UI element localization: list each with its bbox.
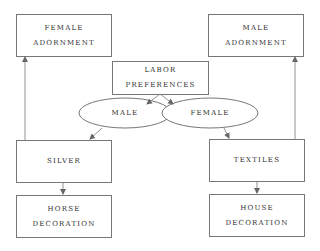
edge-female-to-textiles (224, 128, 229, 138)
edge-male-to-silver (90, 128, 102, 139)
silver-node: SILVER (16, 140, 112, 183)
labor-preferences-node: LABOR PREFERENCES (112, 61, 209, 95)
female-adornment-line-1: FEMALE (44, 21, 83, 36)
female-adornment-node: FEMALE ADORNMENT (16, 14, 112, 57)
textiles-label: TEXTILES (234, 153, 280, 168)
male-label: MALE (79, 98, 171, 128)
male-adornment-line-2: ADORNMENT (225, 36, 287, 51)
labor-preferences-line-1: LABOR (145, 63, 177, 78)
house-decoration-line-1: HOUSE (240, 201, 274, 216)
horse-decoration-line-2: DECORATION (32, 217, 95, 232)
horse-decoration-node: HORSE DECORATION (16, 195, 112, 238)
labor-preferences-line-2: PREFERENCES (125, 78, 195, 93)
male-adornment-line-1: MALE (243, 21, 270, 36)
textiles-node: TEXTILES (209, 139, 305, 182)
female-adornment-line-2: ADORNMENT (33, 36, 95, 51)
house-decoration-line-2: DECORATION (225, 216, 288, 231)
male-adornment-node: MALE ADORNMENT (208, 14, 304, 57)
female-label: FEMALE (162, 98, 258, 128)
horse-decoration-line-1: HORSE (47, 202, 80, 217)
house-decoration-node: HOUSE DECORATION (209, 194, 305, 237)
silver-label: SILVER (47, 154, 81, 169)
